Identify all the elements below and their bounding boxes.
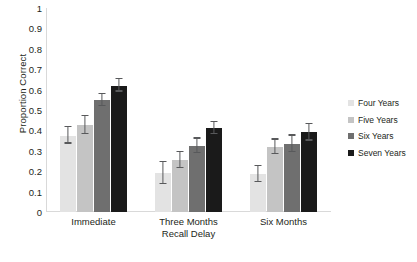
plot-area (46, 8, 331, 212)
bar-group (141, 8, 236, 212)
error-bar (179, 152, 180, 168)
error-bar-cap-top (82, 115, 89, 116)
bar-four-years[interactable] (60, 8, 76, 212)
error-bar-cap-top (99, 93, 106, 94)
error-bar-cap-bottom (211, 133, 218, 134)
bar-seven-years[interactable] (111, 8, 127, 212)
bar-chart: Proportion Correct 00.10.20.30.40.50.60.… (0, 0, 417, 262)
legend-item-four-years[interactable]: Four Years (348, 98, 406, 108)
bar-five-years[interactable] (172, 8, 188, 212)
error-bar-cap-top (211, 121, 218, 122)
legend-swatch-icon (348, 117, 354, 123)
error-bar-cap-bottom (116, 90, 123, 91)
bar-six-years[interactable] (284, 8, 300, 212)
error-bar-cap-top (272, 138, 279, 139)
bar-rect (77, 125, 93, 212)
bar-four-years[interactable] (250, 8, 266, 212)
bar-seven-years[interactable] (206, 8, 222, 212)
x-axis-title: Recall Delay (141, 228, 236, 239)
error-bar-cap-bottom (177, 167, 184, 168)
error-bar-cap-bottom (99, 105, 106, 106)
bar-six-years[interactable] (189, 8, 205, 212)
error-bar-cap-top (306, 123, 313, 124)
error-bar-cap-bottom (82, 133, 89, 134)
error-bar-cap-bottom (160, 183, 167, 184)
legend-label: Five Years (358, 115, 398, 125)
bar-group (236, 8, 331, 212)
legend-swatch-icon (348, 150, 354, 156)
bar-rect (206, 128, 222, 212)
y-axis-tick-labels: 00.10.20.30.40.50.60.70.80.91 (18, 8, 42, 212)
error-bar-cap-bottom (65, 142, 72, 143)
bar-rect (189, 146, 205, 212)
error-bar-cap-top (289, 134, 296, 135)
bar-rect (94, 100, 110, 212)
error-bar (291, 136, 292, 152)
legend-item-seven-years[interactable]: Seven Years (348, 148, 406, 158)
error-bar-cap-top (160, 161, 167, 162)
x-axis-tick-label: Immediate (46, 216, 141, 227)
bar-rect (301, 132, 317, 212)
error-bar (308, 124, 309, 140)
y-axis-tick-label: 0.9 (18, 23, 42, 34)
y-axis-tick-label: 0.5 (18, 105, 42, 116)
y-axis-tick-label: 1 (18, 3, 42, 14)
legend-swatch-icon (348, 100, 354, 106)
error-bar (67, 127, 68, 143)
error-bar-cap-top (65, 126, 72, 127)
y-axis-tick-label: 0.4 (18, 125, 42, 136)
bar-five-years[interactable] (77, 8, 93, 212)
error-bar (162, 162, 163, 184)
y-axis-tick-label: 0.8 (18, 43, 42, 54)
bar-rect (284, 144, 300, 212)
error-bar-cap-top (116, 78, 123, 79)
y-axis-tick-label: 0.6 (18, 84, 42, 95)
error-bar-cap-bottom (194, 152, 201, 153)
legend-label: Six Years (358, 131, 393, 141)
legend-label: Seven Years (358, 148, 406, 158)
error-bar-cap-top (255, 165, 262, 166)
legend-item-five-years[interactable]: Five Years (348, 115, 406, 125)
bar-six-years[interactable] (94, 8, 110, 212)
bar-five-years[interactable] (267, 8, 283, 212)
y-axis-tick-label: 0 (18, 207, 42, 218)
error-bar-cap-bottom (255, 181, 262, 182)
y-axis-tick-label: 0.2 (18, 166, 42, 177)
y-axis-tick-label: 0.7 (18, 64, 42, 75)
error-bar-cap-top (194, 137, 201, 138)
x-axis-tick-label: Six Months (236, 216, 331, 227)
error-bar-cap-top (177, 151, 184, 152)
legend: Four YearsFive YearsSix YearsSeven Years (348, 98, 406, 158)
error-bar (257, 166, 258, 182)
legend-label: Four Years (358, 98, 399, 108)
bar-rect (267, 147, 283, 212)
bar-four-years[interactable] (155, 8, 171, 212)
y-axis-tick-label: 0.3 (18, 145, 42, 156)
bar-rect (60, 136, 76, 213)
error-bar (84, 116, 85, 134)
error-bar-cap-bottom (272, 153, 279, 154)
error-bar-cap-bottom (306, 139, 313, 140)
legend-item-six-years[interactable]: Six Years (348, 131, 406, 141)
error-bar-cap-bottom (289, 151, 296, 152)
bar-seven-years[interactable] (301, 8, 317, 212)
x-axis-tick-label: Three Months (141, 216, 236, 227)
y-axis-tick-label: 0.1 (18, 186, 42, 197)
bar-group (46, 8, 141, 212)
bar-rect (111, 86, 127, 212)
legend-swatch-icon (348, 133, 354, 139)
